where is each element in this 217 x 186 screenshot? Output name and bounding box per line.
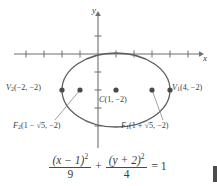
focus-1-label-coords: (1 + √5, −2) bbox=[129, 121, 169, 130]
vertex-1-label-coords: (4, −2) bbox=[180, 83, 202, 92]
center-label: C(1, −2) bbox=[99, 96, 127, 104]
focus-1-label: F1(1 + √5, −2) bbox=[121, 122, 169, 131]
ellipse-figure: y x V2(−2, −2) V1(4, −2) C(1, −2) F2(1 −… bbox=[0, 0, 217, 186]
focus-2-label-coords: (1 − √5, −2) bbox=[21, 121, 61, 130]
focus-1-point bbox=[149, 87, 154, 92]
vertex-2-label-coords: (−2, −2) bbox=[14, 83, 41, 92]
vertex-2-point bbox=[59, 87, 64, 92]
equation-term-1-denominator: 9 bbox=[64, 168, 76, 181]
page-corner-mark bbox=[213, 166, 217, 182]
vertex-1-label: V1(4, −2) bbox=[172, 84, 202, 93]
equation-term-1: (x − 1)2 9 bbox=[49, 153, 91, 181]
y-axis-label: y bbox=[92, 6, 96, 15]
ellipse-equation: (x − 1)2 9 + (y + 2)2 4 = 1 bbox=[0, 153, 217, 181]
focus-2-point bbox=[77, 87, 82, 92]
equation-row: (x − 1)2 9 + (y + 2)2 4 = 1 bbox=[49, 153, 167, 181]
equation-term-2: (y + 2)2 4 bbox=[106, 153, 148, 181]
focus1-leader-line bbox=[152, 90, 163, 120]
equation-term-1-numerator: (x − 1)2 bbox=[49, 153, 91, 168]
x-axis-label: x bbox=[203, 54, 207, 63]
y-axis-arrow bbox=[95, 11, 101, 16]
focus-2-label: F2(1 − √5, −2) bbox=[13, 122, 61, 131]
equation-term-2-numerator-text: (y + 2) bbox=[109, 154, 141, 166]
equation-term-1-exponent: 2 bbox=[84, 152, 88, 161]
equation-term-2-exponent: 2 bbox=[141, 152, 145, 161]
vertex-2-label: V2(−2, −2) bbox=[6, 84, 41, 93]
equation-term-2-denominator: 4 bbox=[121, 168, 133, 181]
equation-term-1-numerator-text: (x − 1) bbox=[52, 154, 84, 166]
equation-operator: + bbox=[94, 161, 103, 173]
center-point bbox=[113, 87, 118, 92]
equation-equals: = 1 bbox=[150, 161, 167, 173]
center-label-coords: (1, −2) bbox=[104, 95, 126, 104]
equation-term-2-numerator: (y + 2)2 bbox=[106, 153, 148, 168]
